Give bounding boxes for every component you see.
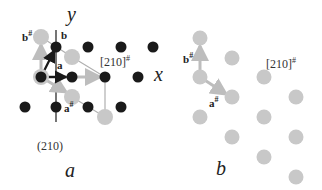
gray-atom — [257, 70, 272, 85]
gray-atom — [257, 150, 272, 165]
gray-atom — [97, 109, 113, 125]
black-atom — [83, 42, 94, 53]
panel-b-caption: b — [216, 158, 226, 178]
black-atom — [67, 72, 78, 83]
gray-atom — [289, 90, 304, 105]
a-label: a — [57, 60, 63, 71]
black-atom — [20, 102, 31, 113]
a-hash-label-b: a# — [209, 96, 219, 109]
b-label: b — [61, 30, 67, 41]
gray-atom — [64, 49, 80, 65]
panel-b-vectors — [200, 46, 226, 94]
lattice-diagram — [0, 0, 322, 190]
a-hash-label: a# — [64, 101, 74, 114]
black-atom — [148, 42, 159, 53]
gray-atom — [225, 51, 240, 66]
y-axis-label: y — [67, 4, 76, 24]
black-atom — [83, 102, 94, 113]
gray-atom — [289, 170, 304, 185]
black-atom — [133, 72, 144, 83]
gray-atom — [225, 90, 240, 105]
plane-210-label: (210) — [37, 140, 63, 152]
gray-atom — [193, 31, 208, 46]
b-hash-label-b: b# — [183, 52, 193, 65]
gray-atom — [193, 110, 208, 125]
dir-210-label: [210]# — [100, 55, 130, 68]
gray-atom — [33, 29, 49, 45]
black-atom — [116, 102, 127, 113]
b-hash-label: b# — [22, 30, 32, 43]
panel-a-caption: a — [65, 160, 75, 180]
gray-atom — [289, 130, 304, 145]
black-atom — [36, 72, 47, 83]
x-axis-label: x — [154, 64, 163, 84]
black-atom — [100, 72, 111, 83]
black-atom — [116, 42, 127, 53]
black-atom — [51, 42, 62, 53]
gray-atom — [225, 130, 240, 145]
gray-atom — [193, 70, 208, 85]
dir-210-label-b: [210]# — [266, 57, 296, 70]
gray-atom — [257, 110, 272, 125]
black-atom — [51, 102, 62, 113]
